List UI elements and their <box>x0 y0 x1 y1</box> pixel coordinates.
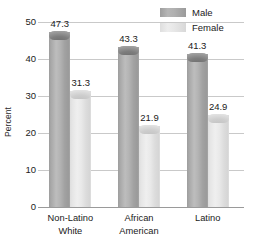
y-axis-tick-label: 40 <box>14 54 36 64</box>
y-axis-tick-label: 0 <box>14 202 36 212</box>
x-axis-category-label: Non-LatinoWhite <box>36 212 104 238</box>
category-label-line: Non-Latino <box>36 212 104 225</box>
bar-top-cap <box>49 31 70 40</box>
bar-top-cap <box>70 90 91 99</box>
y-axis-tick-label: 30 <box>14 91 36 101</box>
legend-label: Female <box>192 22 224 33</box>
y-axis-tick-label: 50 <box>14 17 36 27</box>
y-axis-tick-label: 10 <box>14 165 36 175</box>
bar-top-cap <box>118 46 139 55</box>
category-label-line: American <box>105 225 173 238</box>
x-axis-category-labels: Non-LatinoWhiteAfricanAmericanLatino <box>38 212 244 246</box>
x-axis-category-label: AfricanAmerican <box>105 212 173 238</box>
y-axis-tick-labels: 01020304050 <box>12 0 36 247</box>
legend-item[interactable]: Male <box>160 6 252 19</box>
bar <box>187 54 208 207</box>
bar-group: 43.321.9 <box>118 22 160 207</box>
legend-item[interactable]: Female <box>160 21 252 34</box>
bar-value-label: 24.9 <box>201 102 236 112</box>
category-label-line: Latino <box>174 212 242 225</box>
bar <box>49 32 70 207</box>
x-axis-category-label: Latino <box>174 212 242 225</box>
plot-area: 47.331.343.321.941.324.9 <box>38 22 244 207</box>
bar-group: 47.331.3 <box>49 22 91 207</box>
bar-body <box>118 47 139 207</box>
bar-chart: Percent 01020304050 47.331.343.321.941.3… <box>0 0 256 247</box>
bar-body <box>208 115 229 207</box>
bar-top-cap <box>208 114 229 123</box>
bar-body <box>49 32 70 207</box>
bar-body <box>139 126 160 207</box>
bar-body <box>187 54 208 207</box>
legend-swatch-male <box>160 8 186 17</box>
legend-label: Male <box>192 7 213 18</box>
category-label-line: White <box>36 225 104 238</box>
bar-value-label: 21.9 <box>132 113 167 123</box>
bar-group: 41.324.9 <box>187 22 229 207</box>
category-label-line: African <box>105 212 173 225</box>
bar-top-cap <box>139 125 160 134</box>
bar-value-label: 47.3 <box>42 19 77 29</box>
bar <box>208 115 229 207</box>
y-axis-tick-label: 20 <box>14 128 36 138</box>
legend-swatch-female <box>160 23 186 32</box>
bar-top-cap <box>187 53 208 62</box>
bar <box>139 126 160 207</box>
bar <box>70 91 91 207</box>
chart-legend: MaleFemale <box>160 6 252 36</box>
bar <box>118 47 139 207</box>
bar-value-label: 41.3 <box>180 41 215 51</box>
bar-value-label: 43.3 <box>111 34 146 44</box>
bar-value-label: 31.3 <box>63 78 98 88</box>
bar-body <box>70 91 91 207</box>
axis-baseline <box>38 207 244 208</box>
